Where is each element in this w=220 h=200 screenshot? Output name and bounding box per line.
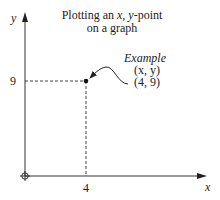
x-axis-label: x: [204, 180, 211, 194]
x-axis-arrow-icon: [197, 173, 207, 179]
x-tick-label: 4: [83, 181, 89, 195]
origin-icon: [20, 171, 30, 181]
title-prefix: Plotting an: [62, 8, 117, 22]
annotation-specific: (4, 9): [134, 75, 160, 89]
data-point: [84, 79, 89, 84]
y-axis-arrow-icon: [22, 12, 28, 22]
title-line-2: on a graph: [87, 21, 138, 35]
coordinate-graph: y x 9 4 Plotting an x, y-point on a grap…: [0, 0, 220, 200]
y-axis-label: y: [10, 11, 17, 25]
title-line-1: Plotting an x, y-point: [62, 8, 163, 22]
y-tick-label: 9: [10, 74, 16, 88]
title-suffix: -point: [134, 8, 163, 22]
annotation-arrow-icon: [90, 67, 128, 84]
